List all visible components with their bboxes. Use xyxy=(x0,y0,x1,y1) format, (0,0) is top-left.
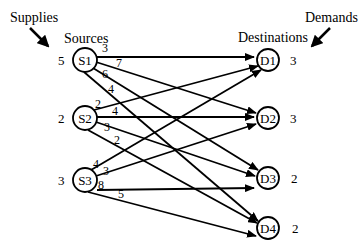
destination-node-label: D1 xyxy=(260,53,276,68)
demands-label: Demands xyxy=(305,10,358,25)
destination-node-d3: D3 xyxy=(257,167,279,189)
destination-node-d2: D2 xyxy=(257,107,279,129)
source-node-label: S2 xyxy=(78,111,92,126)
source-node-s3: S3 xyxy=(73,168,97,192)
edge-cost-s3-d3: 8 xyxy=(98,178,104,192)
source-node-label: S3 xyxy=(78,173,92,188)
edge-s3-d1 xyxy=(91,70,261,170)
destinations-label: Destinations xyxy=(238,30,308,45)
destination-node-label: D2 xyxy=(260,111,276,126)
source-node-s2: S2 xyxy=(73,106,97,130)
supply-value-s2: 2 xyxy=(58,111,65,126)
edge-cost-s1-d3: 6 xyxy=(102,67,108,81)
edge-cost-s2-d2: 4 xyxy=(112,104,118,118)
edge-cost-s2-d3: 3 xyxy=(104,120,110,134)
edge-cost-s3-d2: 3 xyxy=(103,164,109,178)
transportation-network-diagram: Supplies Sources Demands Destinations 3 … xyxy=(0,0,364,249)
destination-node-label: D4 xyxy=(260,221,276,236)
edge-cost-s1-d4: 4 xyxy=(108,82,114,96)
supplies-label: Supplies xyxy=(10,10,58,25)
edge-cost-s2-d1: 2 xyxy=(95,97,101,111)
supply-value-s1: 5 xyxy=(58,53,65,68)
supplies-arrow-icon xyxy=(30,28,48,46)
edge-cost-s2-d4: 2 xyxy=(114,133,120,147)
destination-node-label: D3 xyxy=(260,171,276,186)
supply-value-s3: 3 xyxy=(58,173,65,188)
edge-s2-d1 xyxy=(94,66,258,110)
edge-cost-s1-d2: 7 xyxy=(116,56,122,70)
source-node-label: S1 xyxy=(78,53,92,68)
edge-cost-s3-d1: 4 xyxy=(93,157,99,171)
demand-value-d3: 2 xyxy=(291,171,298,186)
demand-value-d4: 2 xyxy=(292,221,299,236)
edge-cost-s3-d4: 5 xyxy=(118,187,124,201)
demands-arrow-icon xyxy=(312,28,330,46)
edge-cost-s1-d1: 3 xyxy=(102,41,108,55)
source-node-s1: S1 xyxy=(73,48,97,72)
demand-value-d1: 3 xyxy=(290,53,297,68)
destination-node-d1: D1 xyxy=(257,49,279,71)
destination-node-d4: D4 xyxy=(257,217,279,239)
demand-value-d2: 3 xyxy=(290,111,297,126)
